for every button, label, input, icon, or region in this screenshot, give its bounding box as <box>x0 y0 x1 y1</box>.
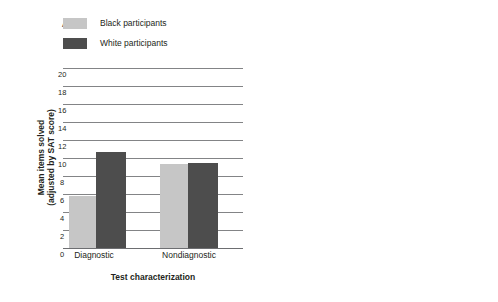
ytick-label-10: 10 <box>58 160 66 169</box>
ytick-label-16: 16 <box>58 106 66 115</box>
ytick-label-12: 12 <box>58 142 66 151</box>
panel-a-yaxis-title-line2: (adjusted by SAT score) <box>46 109 56 206</box>
ytick-label-18: 18 <box>58 88 66 97</box>
bar-black-nondiagnostic <box>160 164 188 248</box>
panel-b: B. Women Men 30 20 <box>255 0 498 302</box>
ytick-label-20: 20 <box>58 70 66 79</box>
bar-black-diagnostic <box>69 196 96 248</box>
ytick-label-4: 4 <box>60 214 64 223</box>
legend-label: Black participants <box>100 18 167 29</box>
bar-white-diagnostic <box>96 152 126 248</box>
xgroup-label-diagnostic: Diagnostic <box>54 250 134 261</box>
ytick-label-14: 14 <box>58 124 66 133</box>
ytick-label-8: 8 <box>60 178 64 187</box>
legend-label: White participants <box>100 38 168 49</box>
figure-container: A. Black participants White participants <box>0 0 498 302</box>
legend-item-white-participants: White participants <box>63 35 168 51</box>
ytick-label-6: 6 <box>60 196 64 205</box>
panel-a-legend: Black participants White participants <box>63 15 168 55</box>
panel-a-plot-area <box>63 68 243 248</box>
legend-item-black-participants: Black participants <box>63 15 168 31</box>
panel-a-yaxis-title: Mean items solved (adjusted by SAT score… <box>36 70 56 245</box>
legend-swatch-icon <box>63 38 87 49</box>
axis-baseline <box>63 248 243 249</box>
xgroup-label-nondiagnostic: Nondiagnostic <box>143 250 235 261</box>
panel-a: A. Black participants White participants <box>0 0 255 302</box>
bar-white-nondiagnostic <box>188 163 218 248</box>
panel-a-bars <box>63 68 243 248</box>
ytick-label-2: 2 <box>60 232 64 241</box>
legend-swatch-icon <box>63 18 87 29</box>
panel-a-xaxis-title: Test characterization <box>63 272 243 282</box>
panel-a-yaxis-title-line1: Mean items solved <box>36 120 46 196</box>
